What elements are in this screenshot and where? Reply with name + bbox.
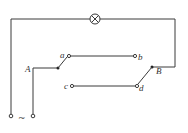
label-switch-B: B xyxy=(156,66,162,76)
lamp-icon xyxy=(90,14,100,24)
wire-source-to-A xyxy=(33,68,58,114)
contact-c xyxy=(70,84,73,87)
ac-source-icon: ~ xyxy=(18,113,26,123)
wire-left-top xyxy=(11,19,90,114)
label-switch-A: A xyxy=(24,64,31,74)
terminal-right xyxy=(31,114,35,118)
switch-B-blade xyxy=(138,67,152,84)
circuit-diagram: a b c d A B ~ xyxy=(0,0,188,133)
terminal-left xyxy=(9,114,13,118)
label-a: a xyxy=(60,50,65,60)
label-b: b xyxy=(138,52,143,62)
contact-b xyxy=(133,54,136,57)
label-d: d xyxy=(139,83,144,93)
label-c: c xyxy=(64,81,68,91)
contact-a xyxy=(67,54,70,57)
